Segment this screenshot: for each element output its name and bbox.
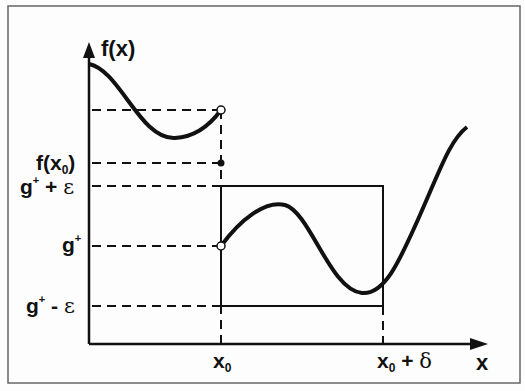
- tick-x0-plus-delta: x0 + δ: [377, 349, 432, 375]
- label-g-plus-eps: g+ + ε: [20, 174, 74, 199]
- tick-x0: x0: [213, 349, 232, 375]
- open-point-right-limit: [217, 242, 225, 250]
- y-axis-arrow-icon: [83, 42, 95, 58]
- frame-border: [8, 6, 520, 383]
- function-curve-left: [89, 64, 221, 138]
- filled-point-f-x0: [218, 160, 225, 167]
- label-f-x0: f(x0): [36, 151, 75, 177]
- x-axis-label: x: [476, 350, 489, 375]
- label-g-minus-eps: g+ - ε: [26, 293, 75, 318]
- y-axis-label: f(x): [101, 36, 135, 61]
- label-g-plus: g+: [62, 232, 81, 256]
- limit-diagram: f(x) x f(x0) g+ + ε g+ g+ - ε x0 x0 + δ: [0, 0, 525, 391]
- x-axis-arrow-icon: [470, 338, 488, 350]
- open-point-left-limit: [217, 106, 225, 114]
- epsilon-delta-box: [221, 186, 383, 306]
- function-curve-right: [221, 127, 467, 293]
